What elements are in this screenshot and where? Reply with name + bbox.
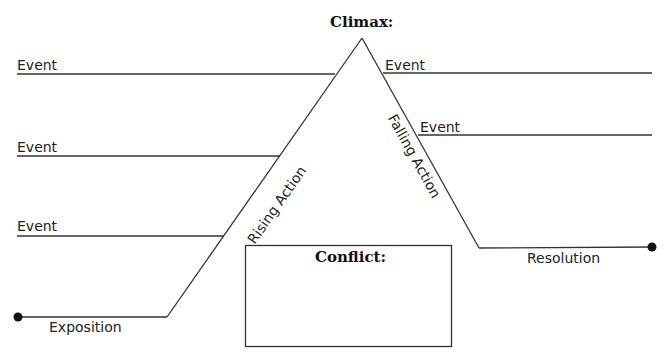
resolution-label: Resolution <box>527 251 600 265</box>
left-event-label-3: Event <box>17 219 57 233</box>
conflict-label: Conflict: <box>315 250 386 265</box>
left-event-label-1: Event <box>17 58 57 72</box>
diagram-lines <box>0 0 672 359</box>
end-dot <box>648 243 657 252</box>
resolution-line <box>479 247 652 248</box>
plot-diagram: Climax: Event Event Event Event Event Ri… <box>0 0 672 359</box>
left-event-label-2: Event <box>17 140 57 154</box>
rising-action-line <box>167 38 362 317</box>
climax-label: Climax: <box>330 15 393 30</box>
start-dot <box>14 313 23 322</box>
right-event-label-1: Event <box>385 58 425 72</box>
exposition-label: Exposition <box>49 320 122 334</box>
right-event-label-2: Event <box>420 120 460 134</box>
